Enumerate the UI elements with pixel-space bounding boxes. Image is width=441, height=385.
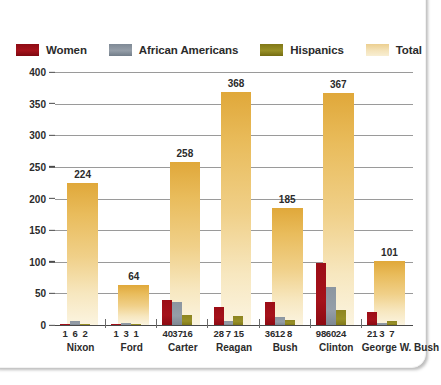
legend-item-hispanics: Hispanics bbox=[260, 44, 343, 56]
series-value-labels: 162 bbox=[55, 327, 106, 340]
value-women: 1 bbox=[111, 328, 121, 339]
y-tick-100: 100 bbox=[29, 256, 46, 267]
value-women: 21 bbox=[367, 328, 377, 339]
legend-swatch-women bbox=[16, 44, 39, 56]
bar-group: 224 bbox=[55, 72, 106, 325]
value-women: 1 bbox=[60, 328, 70, 339]
value-african-americans: 60 bbox=[326, 328, 336, 339]
legend-label-women: Women bbox=[46, 44, 87, 56]
bar-group: 185 bbox=[260, 72, 311, 325]
x-axis-group: 403716Carter bbox=[157, 327, 208, 353]
legend-item-women: Women bbox=[16, 44, 87, 56]
value-african-americans: 3 bbox=[377, 328, 387, 339]
bar-total-value-label: 224 bbox=[74, 169, 91, 180]
bar-group: 258 bbox=[157, 72, 208, 325]
x-axis-category-label: Clinton bbox=[311, 342, 362, 353]
value-hispanics: 2 bbox=[80, 328, 90, 339]
bar-women bbox=[265, 302, 275, 325]
y-tick-200: 200 bbox=[29, 193, 46, 204]
value-women: 40 bbox=[162, 328, 172, 339]
value-hispanics: 1 bbox=[131, 328, 141, 339]
x-axis-group: 2137George W. Bush bbox=[362, 327, 413, 353]
bar-total-value-label: 368 bbox=[228, 78, 245, 89]
bar-hispanics bbox=[336, 310, 346, 325]
series-value-labels: 36128 bbox=[260, 327, 311, 340]
x-axis-category-label: George W. Bush bbox=[362, 342, 413, 353]
legend-item-african-americans: African Americans bbox=[109, 44, 239, 56]
bar-women bbox=[367, 312, 377, 325]
legend-label-african-americans: African Americans bbox=[139, 44, 239, 56]
value-african-americans: 7 bbox=[224, 328, 234, 339]
value-hispanics: 24 bbox=[336, 328, 346, 339]
x-axis-separator bbox=[156, 319, 157, 328]
chart-stage: Women African Americans Hispanics Total … bbox=[0, 0, 441, 385]
series-value-labels: 986024 bbox=[311, 327, 362, 340]
bar-group: 368 bbox=[208, 72, 259, 325]
y-tick-150: 150 bbox=[29, 225, 46, 236]
bar-total-value-label: 64 bbox=[128, 271, 139, 282]
x-axis-group: 36128Bush bbox=[260, 327, 311, 353]
bar-total-value-label: 101 bbox=[381, 247, 398, 258]
value-women: 28 bbox=[214, 328, 224, 339]
bar-women bbox=[214, 307, 224, 325]
bar-african-americans bbox=[172, 302, 182, 325]
y-tick-50: 50 bbox=[35, 288, 46, 299]
bar-women bbox=[162, 300, 172, 325]
x-axis-group: 162Nixon bbox=[55, 327, 106, 353]
legend-item-total: Total bbox=[366, 44, 422, 56]
bar-total bbox=[374, 261, 405, 325]
x-axis-group: 986024Clinton bbox=[311, 327, 362, 353]
value-african-americans: 37 bbox=[172, 328, 182, 339]
bar-group: 64 bbox=[106, 72, 157, 325]
y-tick-0: 0 bbox=[40, 320, 46, 331]
value-african-americans: 12 bbox=[275, 328, 285, 339]
series-value-labels: 28715 bbox=[208, 327, 259, 340]
plot-area: 050100150200250300350400 224642583681853… bbox=[55, 72, 413, 325]
bar-total bbox=[67, 183, 98, 325]
series-value-labels: 131 bbox=[106, 327, 157, 340]
bar-total-value-label: 185 bbox=[279, 194, 296, 205]
bar-african-americans bbox=[326, 287, 336, 325]
bar-hispanics bbox=[233, 316, 243, 325]
x-axis-category-label: Nixon bbox=[55, 342, 106, 353]
x-axis-line bbox=[55, 325, 413, 326]
x-axis-separator bbox=[259, 319, 260, 328]
legend-swatch-african-americans bbox=[109, 44, 132, 56]
x-axis-separator bbox=[361, 319, 362, 328]
bar-women bbox=[316, 263, 326, 325]
bar-total bbox=[118, 285, 149, 325]
y-tick-250: 250 bbox=[29, 161, 46, 172]
x-axis-category-label: Carter bbox=[157, 342, 208, 353]
y-tick-400: 400 bbox=[29, 67, 46, 78]
bar-total-value-label: 258 bbox=[177, 148, 194, 159]
value-hispanics: 16 bbox=[182, 328, 192, 339]
x-axis-category-label: Reagan bbox=[208, 342, 259, 353]
y-tick-350: 350 bbox=[29, 98, 46, 109]
legend-swatch-total bbox=[366, 44, 389, 56]
x-axis-labels: 162Nixon131Ford403716Carter28715Reagan36… bbox=[55, 327, 413, 367]
value-hispanics: 15 bbox=[233, 328, 243, 339]
value-african-americans: 3 bbox=[121, 328, 131, 339]
value-women: 36 bbox=[265, 328, 275, 339]
bar-group: 101 bbox=[362, 72, 413, 325]
x-axis-group: 131Ford bbox=[106, 327, 157, 353]
x-axis-separator bbox=[207, 319, 208, 328]
x-axis-category-label: Bush bbox=[260, 342, 311, 353]
value-african-americans: 6 bbox=[70, 328, 80, 339]
series-value-labels: 403716 bbox=[157, 327, 208, 340]
y-tick-300: 300 bbox=[29, 130, 46, 141]
x-axis-separator bbox=[105, 319, 106, 328]
value-hispanics: 8 bbox=[285, 328, 295, 339]
legend-label-hispanics: Hispanics bbox=[290, 44, 343, 56]
chart-legend: Women African Americans Hispanics Total bbox=[16, 40, 441, 60]
legend-label-total: Total bbox=[396, 44, 422, 56]
bar-total bbox=[170, 162, 201, 325]
series-value-labels: 2137 bbox=[362, 327, 413, 340]
bar-total-value-label: 367 bbox=[330, 79, 347, 90]
x-axis-category-label: Ford bbox=[106, 342, 157, 353]
bar-total bbox=[272, 208, 303, 325]
value-hispanics: 7 bbox=[387, 328, 397, 339]
x-axis-separator bbox=[310, 319, 311, 328]
bar-total bbox=[221, 92, 252, 325]
legend-swatch-hispanics bbox=[260, 44, 283, 56]
